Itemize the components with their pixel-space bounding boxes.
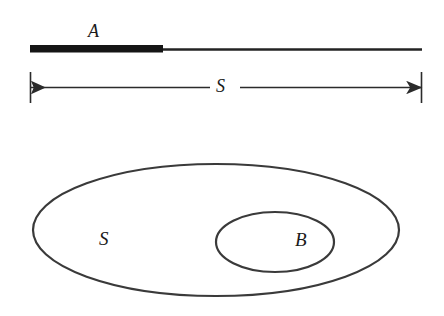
segment-a-bar <box>30 45 163 53</box>
label-b-set: B <box>295 230 307 249</box>
label-a: A <box>88 22 99 40</box>
inner-ellipse-b <box>216 212 334 272</box>
label-s-dimension: S <box>216 77 225 95</box>
dimension-group-s <box>31 72 422 103</box>
interval-panel-group <box>30 45 422 103</box>
figure-canvas: A S S B <box>0 0 444 316</box>
label-s-set: S <box>99 229 109 248</box>
venn-panel-group <box>33 164 399 296</box>
outer-ellipse-s <box>33 164 399 296</box>
figure-vector-layer <box>0 0 444 316</box>
